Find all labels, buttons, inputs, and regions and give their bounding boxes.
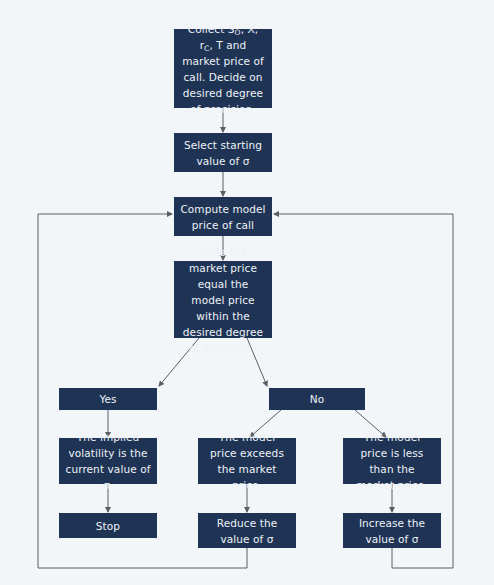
model-less-box: The model price is less than the market … [343, 438, 441, 484]
collect-text-1: Collect S [188, 23, 235, 35]
increase-sigma-box: Increase the value of σ [343, 513, 441, 548]
no-box: No [269, 388, 365, 410]
model-exceeds-label: The model price exceeds the market price… [204, 429, 290, 493]
no-label: No [310, 391, 324, 407]
decision-label: Does the market price equal the model pr… [180, 244, 266, 356]
collect-text-3: , T and market price of call. Decide on … [182, 39, 264, 115]
reduce-sigma-label: Reduce the value of σ [201, 515, 293, 547]
stop-box: Stop [59, 513, 157, 538]
implied-volatility-label: The implied volatility is the current va… [62, 429, 154, 493]
increase-sigma-label: Increase the value of σ [346, 515, 438, 547]
decision-box: Does the market price equal the model pr… [174, 261, 272, 338]
reduce-sigma-box: Reduce the value of σ [198, 513, 296, 548]
collect-inputs-box: Collect SO, X, rC, T and market price of… [174, 29, 272, 108]
compute-price-box: Compute model price of call [174, 197, 272, 236]
select-sigma-box: Select starting value of σ [174, 133, 272, 172]
yes-box: Yes [59, 388, 157, 410]
model-less-label: The model price is less than the market … [349, 429, 435, 493]
stop-label: Stop [96, 518, 120, 534]
select-sigma-label: Select starting value of σ [180, 137, 266, 169]
implied-volatility-box: The implied volatility is the current va… [59, 438, 157, 484]
model-exceeds-box: The model price exceeds the market price… [198, 438, 296, 484]
yes-label: Yes [99, 391, 116, 407]
compute-price-label: Compute model price of call [180, 201, 266, 233]
